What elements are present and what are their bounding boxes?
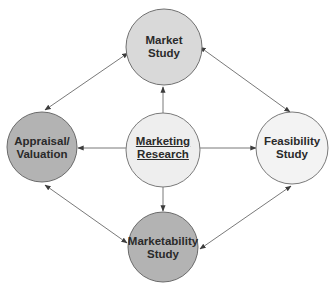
node-feasibility-study xyxy=(256,112,328,184)
node-marketability-study xyxy=(128,212,198,282)
node-marketing-research xyxy=(126,113,200,187)
edge-feasibility-marketability xyxy=(200,186,291,249)
node-appraisal-valuation xyxy=(7,112,77,182)
edge-market-feasibility xyxy=(200,47,290,112)
relationship-diagram xyxy=(0,0,334,291)
edge-market-appraisal xyxy=(45,53,128,110)
edge-appraisal-marketability xyxy=(45,185,127,243)
node-market-study xyxy=(126,9,202,85)
